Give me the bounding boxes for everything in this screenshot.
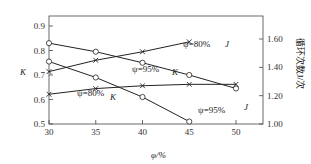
- series-line: [49, 42, 189, 72]
- right-y-label: 循环次数J/次: [295, 38, 306, 89]
- x-tick-label: 35: [91, 127, 101, 137]
- x-axis-label: φ/%: [151, 150, 166, 160]
- y-left-tick-label: 0.8: [34, 46, 46, 56]
- x-tick-label: 30: [45, 127, 55, 137]
- y-left-tick-label: 0.6: [34, 95, 46, 105]
- x-tick-label: 50: [232, 127, 242, 137]
- left-y-axis: 0.50.60.70.80.9: [34, 21, 53, 129]
- series-annotation: ψ=80%: [77, 88, 105, 98]
- series-annotation: ψ=95%: [132, 64, 160, 74]
- annotations: ψ=80%Jψ=95%Kψ=80%Kψ=95%J: [77, 39, 249, 115]
- chart: 3035404550 0.50.60.70.80.9 1.001.201.401…: [0, 0, 311, 164]
- y-right-tick-label: 1.00: [267, 119, 283, 129]
- series-annotation: K: [109, 92, 117, 102]
- y-left-tick-label: 0.5: [34, 119, 46, 129]
- series-annotation: J: [244, 102, 249, 112]
- circle-marker: [93, 75, 98, 80]
- y-right-tick-label: 1.20: [267, 91, 283, 101]
- x-tick-label: 45: [185, 127, 195, 137]
- y-right-tick-label: 1.40: [267, 62, 283, 72]
- y-left-tick-label: 0.9: [34, 21, 46, 31]
- y-left-tick-label: 0.7: [34, 70, 46, 80]
- circle-marker: [93, 49, 98, 54]
- series-annotation: K: [171, 67, 179, 77]
- x-tick-label: 40: [138, 127, 148, 137]
- circle-marker: [140, 94, 145, 99]
- circle-marker: [46, 59, 51, 64]
- left-y-label: K: [19, 67, 27, 77]
- series-annotation: J: [225, 39, 230, 49]
- circle-marker: [187, 119, 192, 124]
- y-right-tick-label: 1.60: [267, 34, 283, 44]
- x-axis: 3035404550: [45, 120, 242, 137]
- circle-marker: [187, 72, 192, 77]
- circle-marker: [46, 41, 51, 46]
- series-annotation: ψ=95%: [198, 105, 226, 115]
- series-annotation: ψ=80%: [183, 39, 211, 49]
